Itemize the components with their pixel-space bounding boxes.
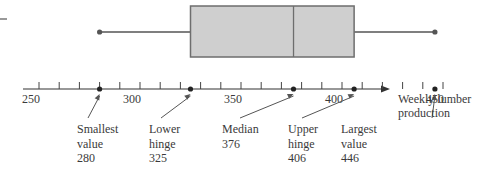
min-point: [97, 29, 102, 34]
boxplot: [97, 6, 438, 57]
annotation: Lowerhinge325: [149, 94, 191, 165]
annotation-text: value: [77, 137, 103, 151]
annotation-text: 446: [341, 151, 359, 165]
annotation-arrow: [240, 96, 294, 118]
annotation-text: Lower: [149, 122, 180, 136]
boxplot-chart: 250300350400450 Smallestvalue280Lowerhin…: [0, 0, 478, 178]
annotation-text: 376: [222, 137, 240, 151]
tick-label: 300: [123, 92, 141, 106]
tick-label: 400: [325, 92, 343, 106]
box: [191, 6, 355, 57]
annotation-text: Median: [222, 122, 259, 136]
x-axis: 250300350400450: [22, 82, 444, 106]
axis-label-text: Weekly lumber: [398, 92, 471, 106]
annotation-arrow: [161, 96, 191, 118]
annotation-text: Upper: [288, 122, 318, 136]
annotation-text: Largest: [341, 122, 377, 136]
max-point: [432, 29, 437, 34]
annotation-text: Smallest: [77, 122, 119, 136]
arrowhead-icon: [95, 94, 100, 101]
annotation-text: value: [341, 137, 367, 151]
tick-label: 250: [22, 92, 40, 106]
annotation-text: hinge: [288, 137, 315, 151]
annotation-text: 406: [288, 151, 306, 165]
axis-point: [432, 86, 437, 91]
axis-point: [352, 86, 357, 91]
x-axis-label: Weekly lumberproduction: [398, 92, 471, 120]
tick-label: 350: [224, 92, 242, 106]
axis-point: [291, 86, 296, 91]
annotation-text: 280: [77, 151, 95, 165]
axis-label-text: production: [398, 106, 450, 120]
annotation-text: hinge: [149, 137, 176, 151]
annotation: Smallestvalue280: [77, 94, 119, 165]
axis-point: [97, 86, 102, 91]
annotation-text: 325: [149, 151, 167, 165]
axis-point: [188, 86, 193, 91]
